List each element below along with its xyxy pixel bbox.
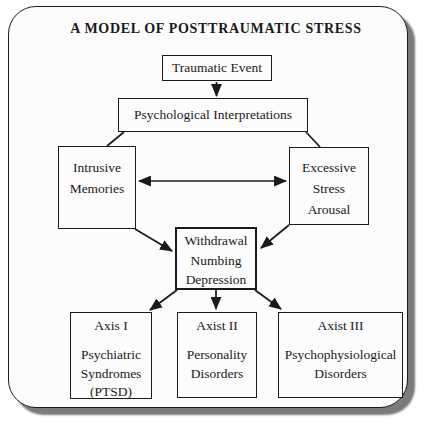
arrow-withdrawal-to-axis3 [255,290,281,309]
node-psychological-interpretations-label: Psychological Interpretations [134,107,292,122]
node-axis-i-line2: Syndromes [71,365,151,384]
node-axis-ii-line2: Disorders [178,365,256,384]
node-axis-i-body: Psychiatric Syndromes (PTSD) [71,346,151,402]
node-psychological-interpretations: Psychological Interpretations [118,98,308,132]
diagram-canvas: A MODEL OF POSTTRAUMATIC STRESS Traumati… [0,0,429,429]
node-withdrawal-line1: Withdrawal [177,231,255,251]
node-intrusive-memories-line1: Intrusive [59,157,135,178]
node-withdrawal-line3: Depression [177,270,255,290]
arrow-excessive-to-withdrawal [261,225,289,248]
node-axis-i-line1: Psychiatric [71,346,151,365]
node-traumatic-event: Traumatic Event [162,55,272,81]
node-excessive-stress-arousal-line1: Excessive [290,157,368,178]
diagram-title: A MODEL OF POSTTRAUMATIC STRESS [8,21,408,37]
line-psych-to-intrusive [107,132,124,146]
node-axis-iii-line2: Disorders [279,365,402,384]
node-withdrawal-line2: Numbing [177,251,255,271]
node-axis-i-psychiatric-syndromes: Axis I Psychiatric Syndromes (PTSD) [70,312,152,399]
node-axis-ii-line1: Personality [178,346,256,365]
node-excessive-stress-arousal: Excessive Stress Arousal [289,147,369,225]
node-axis-i-header: Axis I [71,313,151,336]
node-axis-ii-personality-disorders: Axist II Personality Disorders [177,312,257,398]
arrow-withdrawal-to-axis1 [150,290,177,310]
node-excessive-stress-arousal-line2: Stress [290,178,368,199]
node-excessive-stress-arousal-line3: Arousal [290,199,368,220]
node-intrusive-memories: Intrusive Memories [58,146,136,229]
node-traumatic-event-label: Traumatic Event [172,60,262,75]
arrow-intrusive-to-withdrawal [135,229,172,251]
node-intrusive-memories-line2: Memories [59,178,135,199]
node-axis-i-line3: (PTSD) [71,383,151,402]
node-axis-iii-body: Psychophysiological Disorders [279,346,402,383]
node-withdrawal-numbing-depression: Withdrawal Numbing Depression [175,227,257,290]
line-psych-to-excessive [306,132,320,147]
node-axis-iii-line1: Psychophysiological [279,346,402,365]
node-axis-ii-header: Axist II [178,313,256,336]
node-axis-iii-header: Axist III [279,313,402,336]
node-axis-ii-body: Personality Disorders [178,346,256,383]
node-axis-iii-psychophysiological-disorders: Axist III Psychophysiological Disorders [278,312,403,398]
